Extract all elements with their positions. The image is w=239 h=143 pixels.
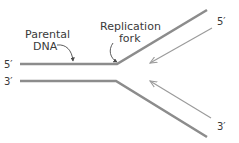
- bottom-left-end-label: 3′: [4, 76, 13, 87]
- bottom-strand: [20, 81, 207, 137]
- top-left-end-label: 5′: [4, 59, 13, 70]
- replication-fork-callout-arrow: [110, 43, 117, 62]
- parental-label-line2: DNA: [33, 40, 58, 53]
- bottom-direction-arrow: [150, 81, 211, 118]
- bottom-right-end-label: 3′: [217, 121, 226, 132]
- fork-label-line2: fork: [119, 32, 141, 45]
- replication-fork-diagram: Parental DNA Replication fork 5′ 3′ 5′ 3…: [0, 0, 239, 143]
- parental-dna-callout-arrow: [57, 45, 73, 61]
- top-right-end-label: 5′: [217, 16, 226, 27]
- top-direction-arrow: [150, 28, 212, 63]
